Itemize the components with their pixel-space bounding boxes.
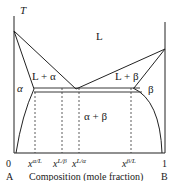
component-a-label: A [6, 171, 14, 181]
solvus-alpha [16, 89, 34, 153]
region-liquid-beta: L + β [115, 70, 139, 82]
region-alpha: α [17, 82, 23, 94]
solvus-beta [133, 88, 162, 153]
x-axis-label: Composition (mole fraction) [29, 171, 143, 181]
region-beta: β [148, 83, 154, 95]
tick-zero: 0 [6, 158, 11, 169]
tick-x-beta-L: xβ/L [121, 157, 136, 169]
tick-one: 1 [162, 158, 167, 169]
tick-x-alpha-L: xα/L [27, 157, 42, 169]
region-alpha-beta: α + β [84, 110, 107, 122]
tick-x-L-beta: xL/β [52, 157, 67, 169]
tick-x-L-alpha: xL/α [71, 157, 86, 169]
region-liquid: L [96, 30, 103, 42]
component-b-label: B [161, 171, 168, 181]
phase-diagram: T L L + α L + β α β α + β 0 1 xα/L xL/β … [0, 0, 179, 181]
region-liquid-alpha: L + α [32, 70, 56, 82]
y-axis-label: T [20, 4, 27, 16]
